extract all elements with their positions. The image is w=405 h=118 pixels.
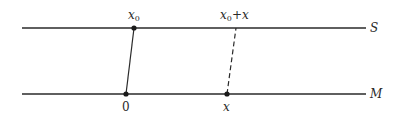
connector-solid [126,28,134,94]
label-origin: 0 [122,100,130,114]
label-x0: x0 [128,8,140,23]
diagram-canvas: x0 x0+x 0 x S M [0,0,405,118]
point-x [224,91,229,96]
label-line-m: M [369,87,383,101]
connector-dashed [227,28,236,94]
point-origin [123,91,128,96]
point-x0 [131,25,136,30]
label-x: x [223,100,230,114]
label-line-s: S [370,21,378,35]
label-x0-plus-x: x0+x [220,8,249,23]
